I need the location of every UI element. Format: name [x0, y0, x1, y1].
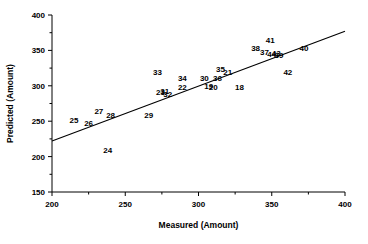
y-tick-label: 200: [32, 153, 46, 162]
data-point-label: 20: [209, 83, 218, 92]
data-point-label: 28: [106, 111, 115, 120]
data-point-label: 41: [266, 36, 275, 45]
axes: 150200250300350400200250300350400: [32, 11, 353, 209]
x-tick-label: 350: [265, 200, 279, 209]
x-axis-title: Measured (Amount): [159, 220, 239, 230]
data-point-label: 39: [275, 51, 284, 60]
y-tick-label: 150: [32, 188, 46, 197]
scatter-plot-figure: 150200250300350400200250300350400 252627…: [0, 0, 368, 244]
data-point-label: 25: [70, 116, 79, 125]
x-tick-label: 400: [338, 200, 352, 209]
y-tick-label: 350: [32, 46, 46, 55]
data-point-labels: 2526272824292331323334223036352119201838…: [70, 36, 309, 155]
data-point-label: 33: [153, 68, 162, 77]
x-tick-label: 200: [45, 200, 59, 209]
x-tick-label: 300: [192, 200, 206, 209]
y-tick-label: 300: [32, 82, 46, 91]
data-point-label: 42: [283, 68, 292, 77]
data-point-label: 22: [178, 83, 187, 92]
data-point-label: 18: [235, 83, 244, 92]
data-point-label: 24: [103, 146, 112, 155]
data-point-label: 40: [300, 44, 309, 53]
y-tick-label: 400: [32, 11, 46, 20]
data-point-label: 21: [223, 68, 232, 77]
data-point-label: 27: [94, 107, 103, 116]
data-point-label: 26: [84, 119, 93, 128]
x-tick-label: 250: [119, 200, 133, 209]
data-point-label: 29: [144, 111, 153, 120]
data-point-label: 36: [213, 74, 222, 83]
y-tick-label: 250: [32, 117, 46, 126]
data-point-label: 32: [163, 90, 172, 99]
plot-svg: 150200250300350400200250300350400 252627…: [0, 0, 368, 244]
y-axis-title: Predicted (Amount): [5, 64, 15, 143]
